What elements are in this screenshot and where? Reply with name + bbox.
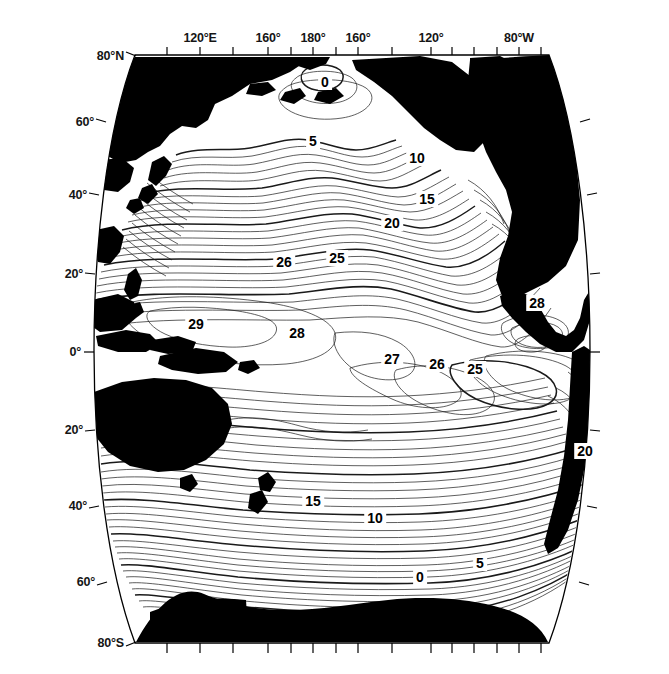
contour-label-20: 20 — [381, 215, 403, 231]
lat-tick-label: 60° — [55, 575, 95, 589]
contour-label-25: 25 — [326, 250, 348, 266]
contour-label-5: 5 — [306, 133, 320, 149]
contour-map-svg — [0, 0, 669, 674]
lat-tick-label: 60° — [54, 115, 94, 129]
lat-tick-label: 40° — [47, 188, 87, 202]
contour-label-15: 15 — [302, 493, 324, 509]
contour-label-20: 20 — [574, 443, 596, 459]
contour-label-25: 25 — [464, 361, 486, 377]
lon-tick-label: 120° — [418, 31, 443, 45]
contour-label-0: 0 — [318, 74, 332, 90]
contour-label-28: 28 — [526, 295, 548, 311]
contour-label-10: 10 — [364, 510, 386, 526]
contour-label-0: 0 — [413, 569, 427, 585]
lat-tick-label: 80°S — [82, 636, 124, 650]
lat-tick-label: 80°N — [84, 49, 124, 63]
figure-container: 120°E 160° 180° 160° 120° 80°W 80°N 60° … — [0, 0, 669, 674]
lon-tick-label: 160° — [345, 31, 370, 45]
contour-label-26: 26 — [273, 254, 295, 270]
lon-tick-label: 120°E — [183, 31, 216, 45]
contour-label-28: 28 — [286, 325, 308, 341]
contour-label-15: 15 — [416, 191, 438, 207]
lon-tick-label: 180° — [300, 31, 325, 45]
lat-tick-label: 20° — [43, 423, 83, 437]
contour-label-27: 27 — [381, 351, 403, 367]
lon-tick-label: 80°W — [504, 31, 534, 45]
contour-label-5: 5 — [473, 555, 487, 571]
contour-label-26: 26 — [426, 356, 448, 372]
lat-tick-label: 40° — [47, 499, 87, 513]
lat-tick-label: 0° — [46, 345, 81, 359]
lat-tick-label: 20° — [43, 267, 83, 281]
lon-tick-label: 160° — [255, 31, 280, 45]
contour-label-29: 29 — [185, 316, 207, 332]
contour-label-10: 10 — [406, 150, 428, 166]
